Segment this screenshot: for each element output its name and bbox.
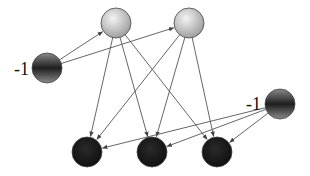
node-output-1	[72, 137, 102, 167]
edge-hidden-2-to-output-3	[191, 32, 214, 137]
node-output-3	[202, 137, 232, 167]
edge-hidden-1-to-output-1	[91, 32, 115, 137]
edge-hidden-2-to-output-1	[97, 30, 183, 139]
edge-hidden-2-to-output-2	[156, 32, 186, 137]
neural-network-diagram	[0, 0, 310, 176]
bias-input-label: -1	[14, 60, 29, 78]
nodes-group	[32, 8, 295, 167]
node-hidden-1	[101, 8, 131, 38]
node-hidden-2	[174, 8, 204, 38]
bias-output-label: -1	[246, 95, 261, 113]
node-bias-output	[265, 89, 295, 119]
edge-hidden-1-to-output-2	[118, 32, 147, 137]
node-output-2	[137, 137, 167, 167]
node-bias-input	[32, 53, 62, 83]
edges-group	[55, 28, 273, 148]
